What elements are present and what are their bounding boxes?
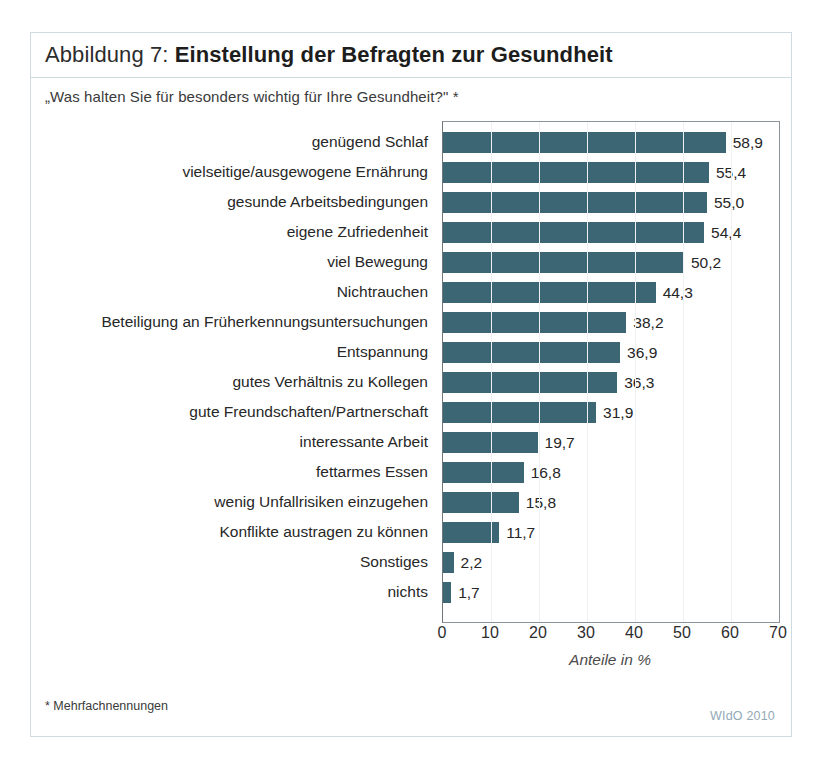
bar-row: 38,2 bbox=[443, 308, 779, 338]
bar bbox=[443, 162, 709, 183]
category-label: Entspannung bbox=[31, 337, 435, 367]
bar-value-label: 16,8 bbox=[524, 462, 561, 483]
bar bbox=[443, 282, 656, 303]
figure-number: Abbildung 7: bbox=[45, 42, 175, 68]
bar bbox=[443, 372, 617, 393]
bar-chart: genügend Schlafvielseitige/ausgewogene E… bbox=[31, 121, 793, 681]
bar-row: 19,7 bbox=[443, 428, 779, 458]
category-label: eigene Zufriedenheit bbox=[31, 217, 435, 247]
x-tick-label: 40 bbox=[625, 624, 643, 642]
bar-value-label: 36,9 bbox=[620, 342, 657, 363]
bar bbox=[443, 252, 684, 273]
category-label: gute Freundschaften/Partnerschaft bbox=[31, 397, 435, 427]
bar-value-label: 50,2 bbox=[684, 252, 721, 273]
bar-row: 36,3 bbox=[443, 368, 779, 398]
bar-series: 58,955,455,054,450,244,338,236,936,331,9… bbox=[443, 128, 779, 608]
bar-row: 31,9 bbox=[443, 398, 779, 428]
gridline bbox=[635, 122, 636, 622]
category-label: fettarmes Essen bbox=[31, 457, 435, 487]
plot-area: 58,955,455,054,450,244,338,236,936,331,9… bbox=[442, 121, 780, 623]
bar bbox=[443, 552, 454, 573]
category-label: gutes Verhältnis zu Kollegen bbox=[31, 367, 435, 397]
category-label: Nichtrauchen bbox=[31, 277, 435, 307]
bar-value-label: 11,7 bbox=[499, 522, 535, 543]
x-tick-label: 20 bbox=[529, 624, 547, 642]
x-axis-label: Anteile in % bbox=[442, 651, 778, 669]
x-tick-label: 0 bbox=[438, 624, 447, 642]
bar-row: 1,7 bbox=[443, 578, 779, 608]
source-credit: WIdO 2010 bbox=[710, 709, 775, 723]
category-label: interessante Arbeit bbox=[31, 427, 435, 457]
bar-row: 11,7 bbox=[443, 518, 779, 548]
x-tick-label: 10 bbox=[481, 624, 499, 642]
x-axis-ticks: 010203040506070 bbox=[442, 624, 778, 646]
bar-value-label: 44,3 bbox=[656, 282, 693, 303]
bar-value-label: 38,2 bbox=[626, 312, 663, 333]
gridline bbox=[683, 122, 684, 622]
bar-value-label: 55,4 bbox=[709, 162, 746, 183]
bar-row: 55,0 bbox=[443, 188, 779, 218]
bar-value-label: 54,4 bbox=[704, 222, 741, 243]
gridline bbox=[491, 122, 492, 622]
bar-value-label: 1,7 bbox=[451, 582, 480, 603]
bar bbox=[443, 192, 707, 213]
bar-row: 16,8 bbox=[443, 458, 779, 488]
bar-row: 54,4 bbox=[443, 218, 779, 248]
category-label: vielseitige/ausgewogene Ernährung bbox=[31, 157, 435, 187]
bar bbox=[443, 582, 451, 603]
category-label: gesunde Arbeitsbedingungen bbox=[31, 187, 435, 217]
bar-value-label: 15,8 bbox=[519, 492, 556, 513]
category-label: Beteiligung an Früherkennungsuntersuchun… bbox=[31, 307, 435, 337]
page-title: Einstellung der Befragten zur Gesundheit bbox=[175, 42, 613, 68]
x-tick-label: 30 bbox=[577, 624, 595, 642]
bar-value-label: 2,2 bbox=[454, 552, 483, 573]
bar bbox=[443, 402, 596, 423]
bar bbox=[443, 222, 704, 243]
category-label: viel Bewegung bbox=[31, 247, 435, 277]
category-label: Sonstiges bbox=[31, 547, 435, 577]
x-tick-label: 60 bbox=[721, 624, 739, 642]
category-label: wenig Unfallrisiken einzugehen bbox=[31, 487, 435, 517]
x-tick-label: 50 bbox=[673, 624, 691, 642]
bar-value-label: 31,9 bbox=[596, 402, 633, 423]
bar-row: 55,4 bbox=[443, 158, 779, 188]
figure-question: „Was halten Sie für besonders wichtig fü… bbox=[45, 88, 459, 105]
gridline bbox=[731, 122, 732, 622]
bar bbox=[443, 462, 524, 483]
bar-value-label: 55,0 bbox=[707, 192, 744, 213]
bar bbox=[443, 342, 620, 363]
category-axis-labels: genügend Schlafvielseitige/ausgewogene E… bbox=[31, 127, 435, 607]
bar bbox=[443, 492, 519, 513]
gridline bbox=[539, 122, 540, 622]
category-label: genügend Schlaf bbox=[31, 127, 435, 157]
category-label: nichts bbox=[31, 577, 435, 607]
footnote: * Mehrfachnennungen bbox=[45, 699, 168, 713]
figure-frame: Abbildung 7: Einstellung der Befragten z… bbox=[30, 32, 792, 737]
bar-row: 15,8 bbox=[443, 488, 779, 518]
gridline bbox=[587, 122, 588, 622]
bar-row: 44,3 bbox=[443, 278, 779, 308]
bar-row: 2,2 bbox=[443, 548, 779, 578]
category-label: Konflikte austragen zu können bbox=[31, 517, 435, 547]
bar-value-label: 19,7 bbox=[538, 432, 575, 453]
bar-row: 36,9 bbox=[443, 338, 779, 368]
x-tick-label: 70 bbox=[769, 624, 787, 642]
bar-row: 58,9 bbox=[443, 128, 779, 158]
bar bbox=[443, 312, 626, 333]
bar-row: 50,2 bbox=[443, 248, 779, 278]
figure-title-band: Abbildung 7: Einstellung der Befragten z… bbox=[31, 33, 791, 78]
